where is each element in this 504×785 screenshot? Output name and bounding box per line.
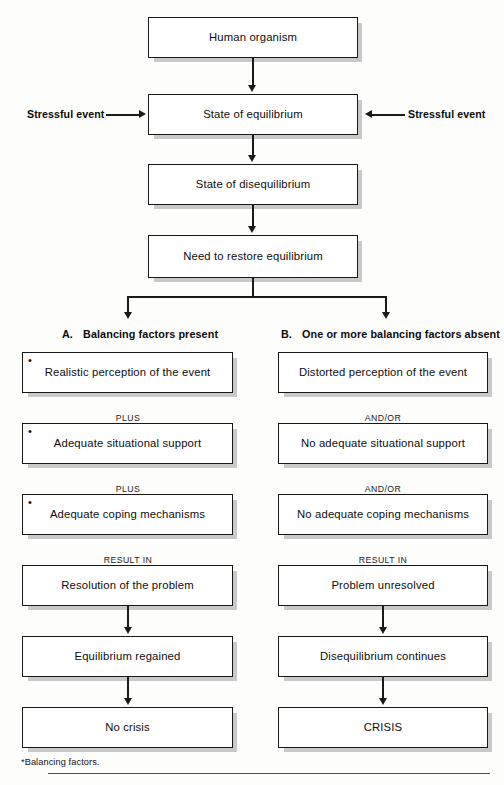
flow-box-human-organism: Human organism: [148, 17, 358, 58]
flowchart-figure: Human organism State of equilibrium Stre…: [0, 0, 504, 785]
column-b-heading: One or more balancing factors absent: [302, 328, 500, 340]
flow-box-label: Distorted perception of the event: [299, 366, 467, 378]
flow-box-label: Adequate situational support: [54, 437, 201, 449]
connector-line-organism-to-equilibrium: [252, 58, 254, 86]
branch-stem-line: [252, 278, 254, 297]
flow-box-no-crisis: No crisis: [22, 707, 233, 748]
flow-box-state-of-disequilibrium: State of disequilibrium: [148, 164, 358, 205]
flow-box-no-adequate-situational-support: No adequate situational support: [278, 423, 488, 464]
balancing-factor-bullet: •: [28, 426, 32, 437]
flow-box-disequilibrium-continues: Disequilibrium continues: [278, 636, 488, 677]
flow-box-adequate-coping-mechanisms: • Adequate coping mechanisms: [22, 494, 233, 535]
flow-box-adequate-situational-support: • Adequate situational support: [22, 423, 233, 464]
connector-line-equilibrium-to-disequilibrium: [252, 135, 254, 156]
flow-box-label: Equilibrium regained: [75, 650, 181, 662]
flow-box-state-of-equilibrium: State of equilibrium: [148, 94, 358, 135]
connector-label-b-1: AND/OR: [338, 413, 428, 423]
flow-box-realistic-perception: • Realistic perception of the event: [22, 352, 233, 393]
flow-box-equilibrium-regained: Equilibrium regained: [22, 636, 233, 677]
flow-box-resolution-of-the-problem: Resolution of the problem: [22, 565, 233, 606]
balancing-factor-bullet: •: [28, 497, 32, 508]
connector-line-b-unresolved-to-disequilibrium: [382, 606, 384, 628]
flow-box-label: Resolution of the problem: [61, 579, 193, 591]
connector-label-b-2: AND/OR: [338, 484, 428, 494]
flow-box-label: Realistic perception of the event: [45, 366, 211, 378]
branch-horizontal-line: [127, 296, 386, 298]
connector-line-b-disequilibrium-to-crisis: [382, 677, 384, 699]
figure-bottom-rule: [48, 773, 490, 774]
branch-arrow-right: [382, 312, 390, 319]
connector-line-a-resolution-to-equilibrium: [127, 606, 129, 628]
connector-arrow-a-equilibrium-to-no-crisis: [124, 698, 132, 705]
stressful-event-line-right: [372, 114, 405, 116]
flow-box-label: No adequate situational support: [301, 437, 465, 449]
connector-arrow-a-resolution-to-equilibrium: [124, 627, 132, 634]
flow-box-problem-unresolved: Problem unresolved: [278, 565, 488, 606]
column-b-letter: B.: [281, 328, 292, 340]
connector-arrow-b-unresolved-to-disequilibrium: [379, 627, 387, 634]
connector-label-a-2: PLUS: [83, 484, 173, 494]
connector-arrow-organism-to-equilibrium: [248, 85, 256, 92]
flow-box-label: Adequate coping mechanisms: [50, 508, 205, 520]
flow-box-label: No adequate coping mechanisms: [297, 508, 469, 520]
stressful-event-line-left: [106, 114, 142, 116]
flow-box-label: State of equilibrium: [203, 108, 303, 120]
flow-box-label: Need to restore equilibrium: [183, 250, 323, 262]
flow-box-label: Disequilibrium continues: [320, 650, 446, 662]
flow-box-label: CRISIS: [364, 721, 403, 733]
flow-box-crisis: CRISIS: [278, 707, 488, 748]
flow-box-need-to-restore-equilibrium: Need to restore equilibrium: [148, 235, 358, 278]
flow-box-label: Human organism: [209, 31, 297, 43]
branch-arrow-left: [124, 312, 132, 319]
branch-drop-line-left: [127, 296, 129, 313]
connector-line-a-equilibrium-to-no-crisis: [127, 677, 129, 699]
flow-box-label: No crisis: [105, 721, 150, 733]
flow-box-label: State of disequilibrium: [196, 178, 311, 190]
connector-label-a-3: RESULT IN: [83, 555, 173, 565]
connector-arrow-b-disequilibrium-to-crisis: [379, 698, 387, 705]
stressful-event-arrow-right: [365, 110, 372, 118]
branch-drop-line-right: [385, 296, 387, 313]
flow-box-label: Problem unresolved: [331, 579, 434, 591]
stressful-event-label-left: Stressful event: [27, 108, 104, 120]
flow-box-distorted-perception: Distorted perception of the event: [278, 352, 488, 393]
balancing-factor-bullet: •: [28, 355, 32, 366]
column-a-letter: A.: [62, 328, 73, 340]
column-a-heading: Balancing factors present: [83, 328, 218, 340]
stressful-event-arrow-left: [139, 110, 146, 118]
connector-label-a-1: PLUS: [83, 413, 173, 423]
flow-box-no-adequate-coping-mechanisms: No adequate coping mechanisms: [278, 494, 488, 535]
connector-arrow-disequilibrium-to-need: [248, 226, 256, 233]
stressful-event-label-right: Stressful event: [408, 108, 485, 120]
connector-label-b-3: RESULT IN: [338, 555, 428, 565]
connector-line-disequilibrium-to-need: [252, 205, 254, 227]
connector-arrow-equilibrium-to-disequilibrium: [248, 155, 256, 162]
figure-footnote: *Balancing factors.: [21, 757, 100, 767]
